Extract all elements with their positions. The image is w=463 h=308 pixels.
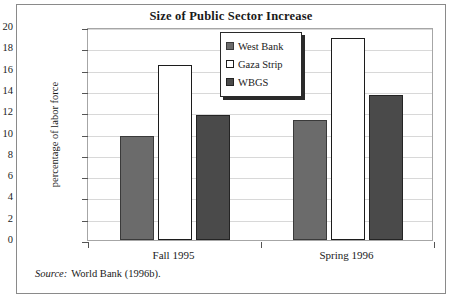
legend-item-gaza-strip: Gaza Strip [226,55,296,73]
bar-gaza-strip-spring-1996 [331,38,365,240]
source-value: World Bank (1996b). [71,268,160,279]
bar-wbgs-fall-1995 [196,115,230,240]
figure-container: Size of Public Sector Increase 024681012… [16,4,446,294]
x-axis-tick [88,242,89,248]
y-axis-tick-label: 8 [0,149,13,160]
legend-label-wbgs: WBGS [238,77,268,88]
y-axis-tick [82,221,88,222]
y-axis-tick [82,178,88,179]
y-axis-tick [82,50,88,51]
bar-gaza-strip-fall-1995 [158,65,192,240]
y-axis-tick [82,72,88,73]
source-label: Source: [35,268,67,279]
y-axis-tick [82,157,88,158]
gridline [88,29,432,30]
legend-label-west-bank: West Bank [238,41,284,52]
y-axis-tick [82,29,88,30]
bar-west-bank-spring-1996 [293,120,327,240]
chart-legend: West Bank Gaza Strip WBGS [220,32,302,97]
y-axis-label: percentage of labor force [49,28,67,241]
x-axis-category-label: Fall 1995 [87,249,260,261]
x-axis-tick [434,242,435,248]
y-axis-tick-label: 20 [0,21,13,32]
y-axis-tick-label: 2 [0,213,13,224]
x-axis-tick [261,242,262,248]
y-axis-tick-label: 6 [0,170,13,181]
y-axis-tick [82,93,88,94]
legend-swatch-icon-gaza-strip [226,60,234,68]
y-axis-tick [82,114,88,115]
y-axis-tick-label: 18 [0,42,13,53]
bar-chart: 02468101214161820Fall 1995Spring 1996 pe… [17,5,447,295]
y-axis-tick-label: 4 [0,191,13,202]
legend-label-gaza-strip: Gaza Strip [238,59,283,70]
bar-west-bank-fall-1995 [120,136,154,240]
source-note: Source:World Bank (1996b). [35,268,161,279]
y-axis-tick-label: 14 [0,85,13,96]
legend-swatch-icon-west-bank [226,42,234,50]
y-axis-tick-label: 0 [0,234,13,245]
y-axis-tick [82,199,88,200]
x-axis-category-label: Spring 1996 [260,249,433,261]
bar-wbgs-spring-1996 [369,95,403,240]
y-axis-tick-label: 12 [0,106,13,117]
legend-item-west-bank: West Bank [226,37,296,55]
y-axis-tick-label: 10 [0,128,13,139]
legend-swatch-icon-wbgs [226,78,234,86]
legend-item-wbgs: WBGS [226,73,296,91]
y-axis-tick-label: 16 [0,64,13,75]
y-axis-tick [82,136,88,137]
